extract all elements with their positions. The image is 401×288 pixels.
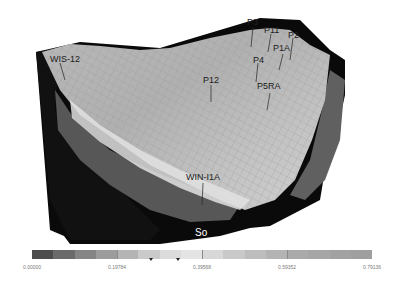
well-label-wis-12: WIS-12	[50, 55, 80, 64]
colorbar-segment	[96, 250, 117, 259]
colorbar-tick-line	[202, 250, 203, 259]
reservoir-3d-view[interactable]	[0, 0, 401, 288]
colorbar-tick-label: 0.19784	[108, 264, 126, 270]
colorbar-segment	[266, 250, 287, 259]
colorbar-segment	[308, 250, 329, 259]
well-label-p12: P12	[203, 76, 219, 85]
colorbar-segment	[351, 250, 372, 259]
property-label-so: So	[195, 228, 207, 238]
colorbar-tick-line	[287, 250, 288, 259]
colorbar-segment	[75, 250, 96, 259]
colorbar-tick-label: 0.79136	[363, 264, 381, 270]
well-label-p4: P4	[253, 56, 264, 65]
colorbar-marker[interactable]	[149, 258, 153, 261]
well-label-p11: P11	[264, 26, 279, 35]
well-label-p3: P3	[247, 18, 258, 27]
colorbar-segment	[53, 250, 74, 259]
colorbar-segment	[181, 250, 202, 259]
colorbar-tick-label: 0.00000	[23, 264, 41, 270]
colorbar-segment	[287, 250, 308, 259]
well-label-p2: P2	[288, 31, 299, 40]
colorbar-segment	[117, 250, 138, 259]
colorbar-marker[interactable]	[176, 258, 180, 261]
colorbar-tick-label: 0.59352	[278, 264, 296, 270]
well-label-p5ra: P5RA	[257, 82, 281, 91]
colorbar-segment	[330, 250, 351, 259]
colorbar-segment	[202, 250, 223, 259]
well-label-win-i1a: WIN-I1A	[186, 173, 220, 182]
well-label-p1a: P1A	[273, 44, 290, 53]
colorbar-tick-label: 0.39568	[193, 264, 211, 270]
colorbar-segment	[223, 250, 244, 259]
colorbar-segment	[245, 250, 266, 259]
colorbar-segment	[32, 250, 53, 259]
colorbar-tick-line	[117, 250, 118, 259]
